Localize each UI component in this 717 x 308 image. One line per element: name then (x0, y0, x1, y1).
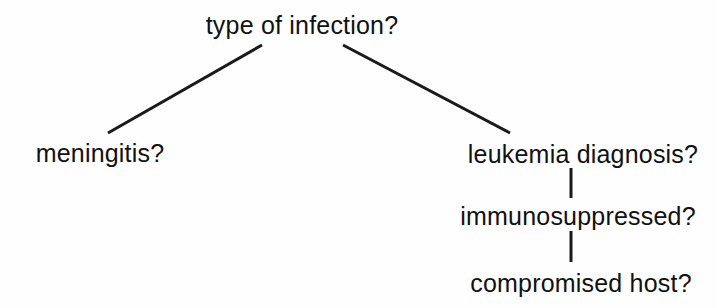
node-compromised-host: compromised host? (470, 271, 692, 296)
decision-tree-diagram: type of infection? meningitis? leukemia … (0, 0, 717, 308)
node-leukemia-diagnosis: leukemia diagnosis? (468, 142, 698, 167)
node-immunosuppressed: immunosuppressed? (460, 204, 695, 229)
node-type-of-infection: type of infection? (206, 13, 399, 38)
node-meningitis: meningitis? (36, 141, 165, 166)
edge-root-to-leukemia (343, 45, 510, 133)
edge-root-to-meningitis (108, 45, 262, 133)
